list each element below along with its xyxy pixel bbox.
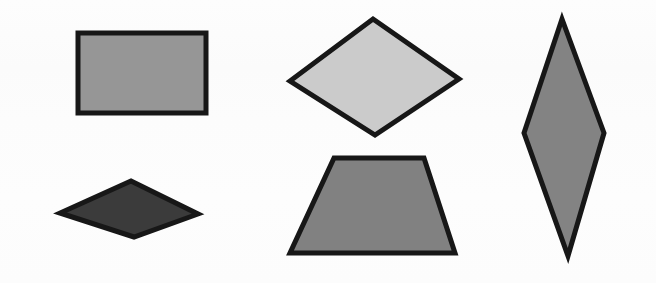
shape-tall-rhombus[interactable] <box>524 19 604 256</box>
shape-wide-diamond[interactable] <box>290 19 459 135</box>
shape-rectangle[interactable] <box>78 33 206 113</box>
shape-canvas <box>0 0 656 283</box>
shapes-svg <box>0 0 656 283</box>
shape-flat-rhombus[interactable] <box>60 181 198 237</box>
shape-trapezoid[interactable] <box>290 158 455 253</box>
